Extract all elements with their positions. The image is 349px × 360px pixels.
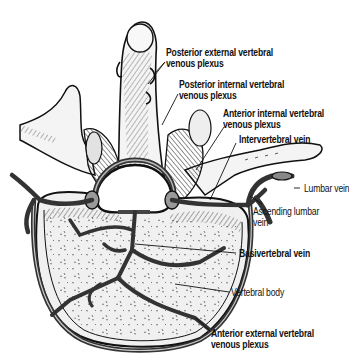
label-basivertebral-vein: Basivertebral vein: [239, 248, 310, 259]
vertebral-body-shape: [36, 192, 249, 347]
label-posterior-external-vertebral-venous-plexus: Posterior external vertebral venous plex…: [166, 47, 273, 69]
label-intervertebral-vein: Intervertebral vein: [239, 134, 310, 145]
label-posterior-internal-vertebral-venous-plexus: Posterior internal vertebral venous plex…: [179, 79, 284, 101]
label-vertebral-body: Vertebral body: [231, 287, 284, 298]
label-lumbar-vein: Lumbar vein: [304, 183, 349, 194]
label-anterior-internal-vertebral-venous-plexus: Anterior internal vertebral venous plexu…: [223, 108, 324, 130]
label-ascending-lumbar-vein: Ascending lumbar vein: [253, 206, 319, 228]
label-anterior-external-vertebral-venous-plexus: Anterior external vertebral venous plexu…: [211, 328, 314, 350]
